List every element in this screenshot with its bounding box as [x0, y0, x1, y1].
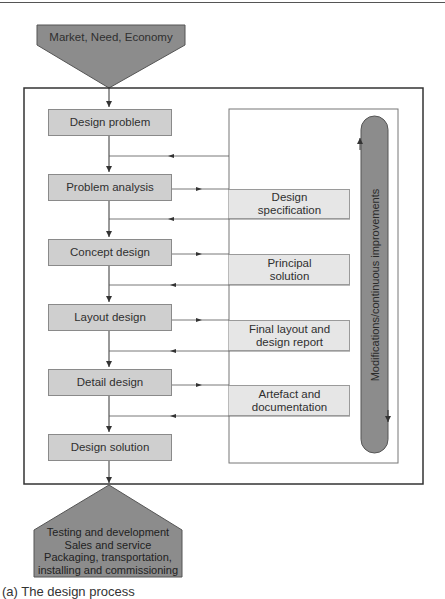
output-label-line1: Final layout and — [249, 323, 330, 336]
step-label: Problem analysis — [48, 174, 172, 201]
result-line: Testing and development — [47, 526, 169, 539]
step-label: Design solution — [48, 434, 172, 461]
return-arrowhead-0 — [168, 154, 174, 158]
return-arrowhead-1 — [168, 217, 174, 221]
result-line: Sales and service — [65, 539, 152, 552]
return-arrowhead-2 — [170, 283, 176, 287]
result-line: Packaging, transportation, — [44, 551, 172, 564]
input-label: Market, Need, Economy — [37, 28, 185, 46]
output-label-line2: documentation — [252, 401, 327, 414]
output-label: Design specification — [229, 189, 350, 219]
result-line: installing and commissioning — [38, 564, 178, 577]
step-label: Concept design — [48, 239, 172, 266]
output-label-line2: solution — [270, 270, 310, 283]
output-label-line1: Design — [272, 191, 308, 204]
feedback-label-wrapper: Modifications/continuous improvements — [358, 120, 392, 450]
forward-arrowhead-2 — [196, 252, 202, 256]
output-label: Artefact and documentation — [229, 385, 350, 416]
output-label: Principal solution — [229, 254, 350, 285]
output-label-line2: specification — [258, 204, 321, 217]
forward-arrowhead-4 — [196, 383, 202, 387]
step-label: Design problem — [48, 109, 172, 136]
step-label: Layout design — [48, 304, 172, 331]
feedback-label: Modifications/continuous improvements — [369, 189, 381, 382]
result-label: Testing and development Sales and servic… — [34, 525, 182, 577]
output-label: Final layout and design report — [229, 320, 350, 351]
return-arrowhead-3 — [170, 349, 176, 353]
forward-arrowhead-1 — [196, 187, 202, 191]
forward-arrowhead-3 — [196, 318, 202, 322]
output-label-line2: design report — [256, 336, 323, 349]
output-label-line1: Principal — [267, 257, 311, 270]
step-label: Detail design — [48, 369, 172, 396]
return-arrowhead-4 — [170, 414, 176, 418]
figure-caption: (a) The design process — [2, 584, 135, 599]
output-label-line1: Artefact and — [258, 388, 320, 401]
